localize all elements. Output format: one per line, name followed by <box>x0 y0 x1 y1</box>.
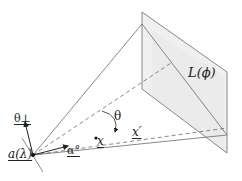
alpha-label: α° <box>67 145 80 156</box>
x-label: x <box>97 135 104 147</box>
plane-label: L(ϕ) <box>188 66 216 79</box>
x-prime-label: x′ <box>132 126 142 138</box>
theta-label: θ <box>114 110 121 122</box>
diagram-canvas: L(ϕ) θ θ⊥ a(λ) α° x x′ <box>0 0 242 181</box>
ray-x <box>33 128 227 155</box>
source-label: a(λ) <box>8 148 32 160</box>
theta-perp-label: θ⊥ <box>14 113 31 124</box>
diagram-figure <box>0 0 242 181</box>
